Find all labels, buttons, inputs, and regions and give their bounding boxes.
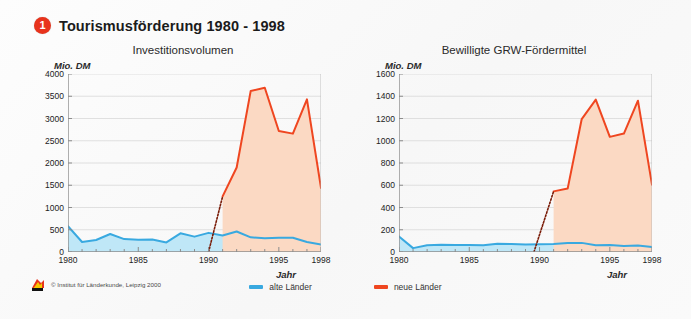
y-tick-label: 400 bbox=[381, 203, 395, 213]
y-tick-label: 500 bbox=[50, 225, 64, 235]
chart-panel-grw: Bewilligte GRW-Fördermittel Mio. DM 0200… bbox=[349, 44, 679, 294]
y-tick-label: 200 bbox=[381, 225, 395, 235]
chart-panel-investitionsvolumen: Investitionsvolumen Mio. DM 050010001500… bbox=[18, 44, 348, 294]
x-tick-label: 1998 bbox=[312, 255, 331, 265]
y-tick-label: 2500 bbox=[45, 136, 64, 146]
credit-text: © Institut für Länderkunde, Leipzig 2000 bbox=[51, 281, 161, 288]
legend-swatch-red-icon bbox=[374, 285, 388, 289]
plot-area-right bbox=[399, 74, 652, 252]
x-axis-name-right: Jahr bbox=[607, 269, 627, 280]
x-axis-ticklabels-right: 19801985199019951998 bbox=[399, 255, 652, 269]
chart-svg-left bbox=[68, 74, 321, 252]
y-axis-ticklabels-right: 02004006008001000120014001600 bbox=[349, 74, 395, 252]
x-tick-label: 1980 bbox=[390, 255, 409, 265]
x-axis-ticklabels-left: 19801985199019951998 bbox=[68, 255, 321, 269]
legend-item-neue-laender: neue Länder bbox=[374, 282, 442, 292]
chart-title-right: Bewilligte GRW-Fördermittel bbox=[349, 44, 679, 56]
legend-swatch-blue-icon bbox=[249, 285, 263, 289]
y-tick-label: 800 bbox=[381, 158, 395, 168]
y-axis-ticklabels-left: 05001000150020002500300035004000 bbox=[18, 74, 64, 252]
title-text: Tourismusförderung 1980 - 1998 bbox=[59, 18, 285, 34]
y-tick-label: 4000 bbox=[45, 69, 64, 79]
y-tick-label: 600 bbox=[381, 180, 395, 190]
x-tick-label: 1985 bbox=[460, 255, 479, 265]
chart-svg-right bbox=[399, 74, 652, 252]
x-tick-label: 1985 bbox=[129, 255, 148, 265]
y-tick-label: 1500 bbox=[45, 180, 64, 190]
y-tick-label: 1200 bbox=[376, 114, 395, 124]
ifl-logo-icon bbox=[30, 277, 46, 292]
y-tick-label: 1400 bbox=[376, 91, 395, 101]
y-tick-label: 3000 bbox=[45, 114, 64, 124]
x-tick-label: 1990 bbox=[199, 255, 218, 265]
x-tick-label: 1995 bbox=[269, 255, 288, 265]
page-title: 1 Tourismusförderung 1980 - 1998 bbox=[34, 17, 285, 34]
x-tick-label: 1995 bbox=[600, 255, 619, 265]
x-tick-label: 1980 bbox=[59, 255, 78, 265]
x-axis-name-left: Jahr bbox=[276, 269, 296, 280]
plot-area-left bbox=[68, 74, 321, 252]
legend-label-neue-laender: neue Länder bbox=[394, 282, 442, 292]
x-tick-label: 1990 bbox=[530, 255, 549, 265]
chart-title-left: Investitionsvolumen bbox=[18, 44, 348, 56]
y-tick-label: 1600 bbox=[376, 69, 395, 79]
y-tick-label: 3500 bbox=[45, 91, 64, 101]
infographic-page: 1 Tourismusförderung 1980 - 1998 Investi… bbox=[0, 0, 691, 319]
y-tick-label: 2000 bbox=[45, 158, 64, 168]
legend-label-alte-laender: alte Länder bbox=[269, 282, 312, 292]
figure-number-badge: 1 bbox=[34, 17, 51, 34]
y-tick-label: 1000 bbox=[45, 203, 64, 213]
x-tick-label: 1998 bbox=[643, 255, 662, 265]
legend-item-alte-laender: alte Länder bbox=[249, 282, 312, 292]
y-tick-label: 1000 bbox=[376, 136, 395, 146]
credit-block: © Institut für Länderkunde, Leipzig 2000 bbox=[30, 277, 161, 292]
